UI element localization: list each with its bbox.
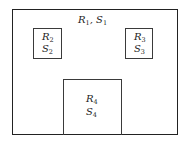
s2-symbol: S xyxy=(42,43,49,54)
s3-symbol: S xyxy=(134,43,141,54)
region-3-s-label: S3 xyxy=(134,43,145,58)
r4-subscript: 4 xyxy=(94,98,98,106)
r4-symbol: R xyxy=(86,93,94,104)
r1-symbol: R xyxy=(78,14,86,25)
r2-symbol: R xyxy=(42,31,50,42)
region-2-s-label: S2 xyxy=(42,43,53,58)
s3-subscript: 3 xyxy=(141,48,145,56)
s4-symbol: S xyxy=(86,106,93,117)
s1-subscript: 1 xyxy=(103,19,107,27)
r3-symbol: R xyxy=(134,31,142,42)
s1-symbol: S xyxy=(96,14,103,25)
region-1-label: R1, S1 xyxy=(78,14,107,29)
s2-subscript: 2 xyxy=(49,48,53,56)
s4-subscript: 4 xyxy=(93,111,97,119)
region-4-s-label: S4 xyxy=(86,106,97,121)
